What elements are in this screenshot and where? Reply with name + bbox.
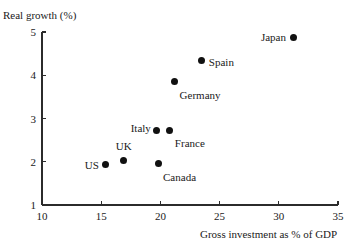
point-label: US <box>85 159 99 170</box>
y-tick-label: 4 <box>16 70 36 81</box>
scatter-chart: 12345 101520253035 USUKCanadaItalyFrance… <box>0 0 361 248</box>
data-point <box>153 127 160 134</box>
y-tick-label: 3 <box>16 113 36 124</box>
data-point <box>198 57 205 64</box>
y-tick-label: 1 <box>16 200 36 211</box>
data-point <box>155 160 162 167</box>
y-axis-title: Real growth (%) <box>3 9 76 21</box>
x-tick-label: 15 <box>96 211 107 222</box>
x-tick-label: 25 <box>214 211 225 222</box>
x-axis-title: Gross investment as % of GDP <box>200 228 337 240</box>
data-point <box>290 34 297 41</box>
plot-area: 12345 101520253035 USUKCanadaItalyFrance… <box>0 0 361 248</box>
x-tick-label: 30 <box>273 211 284 222</box>
y-tick-label: 2 <box>16 156 36 167</box>
point-label: Germany <box>180 90 221 101</box>
y-tick-label: 5 <box>16 27 36 38</box>
x-tick-label: 10 <box>37 211 48 222</box>
point-label: Canada <box>163 172 196 183</box>
point-label: Italy <box>131 123 151 134</box>
point-label: Japan <box>261 32 286 43</box>
axes-svg <box>0 0 361 248</box>
point-label: Spain <box>209 57 234 68</box>
x-tick-label: 35 <box>333 211 344 222</box>
point-label: France <box>175 138 205 149</box>
x-tick-label: 20 <box>155 211 166 222</box>
point-label: UK <box>116 141 132 152</box>
